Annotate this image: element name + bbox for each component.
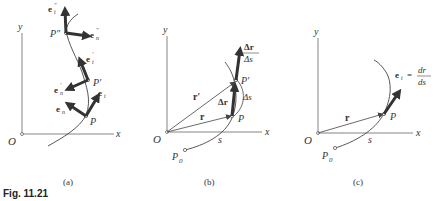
y-axis-label: y (162, 24, 168, 35)
svg-text:0: 0 (329, 156, 333, 164)
panel-b-caption: (b) (204, 177, 215, 187)
r-label: r (345, 112, 350, 123)
svg-text:0: 0 (179, 157, 183, 165)
panel-c: y x O P 0 s r P e t = dr ds (c) (304, 26, 431, 187)
point-P0 (333, 146, 336, 149)
panel-a-caption: (a) (63, 177, 73, 187)
origin-point (21, 133, 24, 136)
et-double-prime-vector (65, 10, 66, 33)
derivative-numerator: dr (418, 65, 427, 75)
point-P-double-prime-label: P″ (49, 28, 61, 39)
r-label: r (200, 111, 205, 122)
point-P0-label: P (321, 150, 328, 161)
x-axis-label: x (415, 127, 421, 138)
r-prime-label: r′ (193, 91, 200, 102)
point-P-label: P (89, 116, 96, 127)
origin-label: O (8, 135, 16, 147)
svg-text:t: t (92, 59, 94, 65)
svg-text:t: t (401, 75, 403, 81)
point-P-label: P (237, 113, 244, 124)
path-curve (335, 60, 390, 148)
panel-c-caption: (c) (353, 177, 363, 187)
point-P-label: P (389, 111, 396, 122)
delta-r-over-delta-s-vector (236, 50, 240, 80)
equals-sign: = (407, 70, 412, 80)
et-double-prime-label: e (48, 4, 52, 14)
r-prime-vector (167, 82, 235, 132)
svg-text:′: ′ (92, 51, 94, 57)
svg-text:t: t (54, 9, 56, 15)
delta-r-label: Δr (218, 97, 228, 107)
origin-label: O (153, 133, 161, 145)
et-label: e (395, 70, 399, 80)
et-prime-label: e (86, 54, 90, 64)
arc-s-label: s (368, 134, 372, 145)
en-prime-label: e (54, 85, 58, 95)
svg-text:″: ″ (96, 27, 99, 33)
delta-s-label: Δs (242, 92, 252, 102)
svg-text:n: n (60, 90, 63, 96)
x-axis-label: x (264, 126, 270, 137)
en-label: e (56, 104, 60, 114)
y-axis-label: y (17, 21, 23, 32)
svg-text:t: t (104, 93, 106, 99)
y-axis-label: y (313, 26, 319, 37)
point-P-prime-label: P′ (240, 75, 250, 86)
en-double-prime-label: e (90, 30, 94, 40)
fraction-denominator: Δs (243, 54, 253, 64)
svg-text:″: ″ (54, 2, 57, 8)
panel-b: y x O P 0 s r r′ P P′ Δr Δs Δr Δs (b) (153, 24, 270, 187)
point-P0-label: P (171, 151, 178, 162)
fraction-numerator: Δr (244, 42, 254, 52)
svg-text:n: n (96, 35, 99, 41)
path-curve (185, 62, 236, 150)
point-P-prime-label: P′ (92, 77, 102, 88)
panel-a: y x O P e t e n P′ e ′ t e ′ n P″ e ″ t … (8, 2, 121, 187)
et-vector (86, 96, 98, 116)
x-axis-label: x (115, 128, 121, 139)
r-vector (167, 116, 231, 132)
en-vector (68, 104, 86, 116)
en-double-prime-vector (66, 33, 88, 36)
et-label: e (98, 88, 102, 98)
en-prime-vector (68, 80, 88, 89)
svg-text:′: ′ (60, 82, 62, 88)
svg-text:n: n (62, 109, 65, 115)
figure-caption: Fig. 11.21 (3, 188, 48, 199)
arc-s-label: s (218, 134, 222, 145)
origin-label: O (304, 134, 312, 146)
derivative-denominator: ds (418, 77, 427, 87)
figure-11-21: y x O P e t e n P′ e ′ t e ′ n P″ e ″ t … (0, 0, 436, 201)
r-vector (318, 114, 383, 133)
point-P0 (183, 148, 186, 151)
